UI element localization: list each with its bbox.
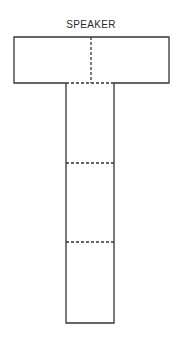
t-table-diagram [0, 0, 176, 342]
stem-outline [66, 83, 114, 323]
